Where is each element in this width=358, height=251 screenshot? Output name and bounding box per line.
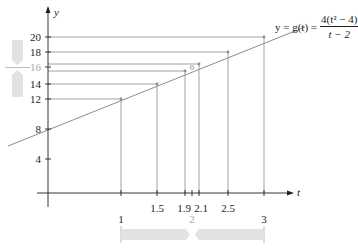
svg-text:16: 16 — [30, 61, 42, 73]
y-axis-arrow-icon — [46, 6, 51, 13]
svg-text:2.1: 2.1 — [194, 202, 208, 214]
formula-fraction: 4(t² − 4) t − 2 — [320, 13, 358, 40]
function-formula: y = g(t) = 4(t² − 4) t − 2 — [275, 13, 358, 40]
svg-text:1: 1 — [118, 213, 124, 225]
t-approach-arrows — [121, 226, 264, 243]
svg-text:8: 8 — [36, 123, 42, 135]
svg-text:18: 18 — [30, 46, 42, 58]
svg-text:4: 4 — [36, 153, 42, 165]
svg-text:14: 14 — [30, 78, 42, 90]
arrow-up-icon — [12, 70, 23, 97]
svg-text:12: 12 — [30, 93, 41, 105]
formula-numerator: 4(t² − 4) — [320, 13, 358, 27]
arrow-right-icon — [121, 229, 190, 240]
arrow-down-icon — [12, 40, 23, 65]
y-tick-labels: 20 18 16 14 12 8 4 — [30, 31, 42, 165]
hole-marker — [190, 66, 194, 70]
y-axis-label: y — [53, 6, 59, 18]
t-axis-arrow-icon — [287, 191, 294, 196]
vertical-guides — [121, 37, 264, 193]
arrow-left-icon — [195, 229, 264, 240]
horizontal-guides — [48, 37, 264, 99]
t-tick-labels: 1.5 1.9 2.1 2.5 1 2 3 — [118, 202, 267, 225]
svg-text:3: 3 — [261, 213, 267, 225]
svg-text:1.5: 1.5 — [150, 202, 164, 214]
svg-text:2: 2 — [189, 213, 195, 225]
formula-lhs: y = g(t) = — [275, 21, 317, 33]
y-approach-arrows — [5, 40, 30, 97]
formula-denominator: t − 2 — [329, 27, 350, 40]
function-line — [8, 27, 305, 146]
t-axis-label: t — [297, 186, 301, 198]
svg-text:2.5: 2.5 — [221, 202, 235, 214]
svg-text:20: 20 — [30, 31, 42, 43]
